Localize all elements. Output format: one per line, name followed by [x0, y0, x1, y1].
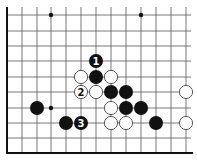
black-stone-icon — [89, 70, 103, 84]
black-stone-icon — [30, 101, 44, 115]
black-stone-icon — [119, 101, 133, 115]
white-stone — [179, 85, 192, 98]
black-stone — [119, 101, 133, 115]
go-board-diagram: 123 — [0, 0, 197, 163]
black-stone-move-1: 1 — [89, 54, 103, 68]
black-stone — [149, 116, 163, 130]
black-stone-icon — [119, 85, 133, 99]
black-stone-icon — [59, 116, 73, 130]
white-stone — [104, 116, 117, 129]
white-stone — [179, 116, 192, 129]
move-number-label: 2 — [78, 87, 85, 98]
white-stone-icon — [104, 101, 117, 114]
white-stone — [89, 85, 102, 98]
white-stone-icon — [179, 85, 192, 98]
black-stone — [119, 85, 133, 99]
white-stone-icon — [119, 116, 132, 129]
move-number-label: 3 — [78, 118, 85, 129]
white-stone — [74, 70, 87, 83]
black-stone-icon — [149, 116, 163, 130]
white-stone-move-2: 2 — [74, 85, 87, 98]
white-stone-icon — [89, 85, 102, 98]
black-stone-icon — [134, 101, 148, 115]
white-stone — [119, 116, 132, 129]
white-stone-icon — [74, 70, 87, 83]
star-point — [49, 106, 53, 110]
white-stone — [104, 101, 117, 114]
move-number-label: 1 — [93, 56, 100, 67]
black-stone — [30, 101, 44, 115]
star-point — [49, 13, 53, 17]
black-stone — [59, 116, 73, 130]
white-stone — [104, 70, 117, 83]
black-stone — [134, 101, 148, 115]
black-stone-icon — [104, 85, 118, 99]
star-point — [139, 13, 143, 17]
white-stone-icon — [104, 70, 117, 83]
black-stone-move-3: 3 — [74, 116, 88, 130]
white-stone-icon — [104, 116, 117, 129]
white-stone-icon — [179, 116, 192, 129]
black-stone — [89, 70, 103, 84]
black-stone — [104, 85, 118, 99]
